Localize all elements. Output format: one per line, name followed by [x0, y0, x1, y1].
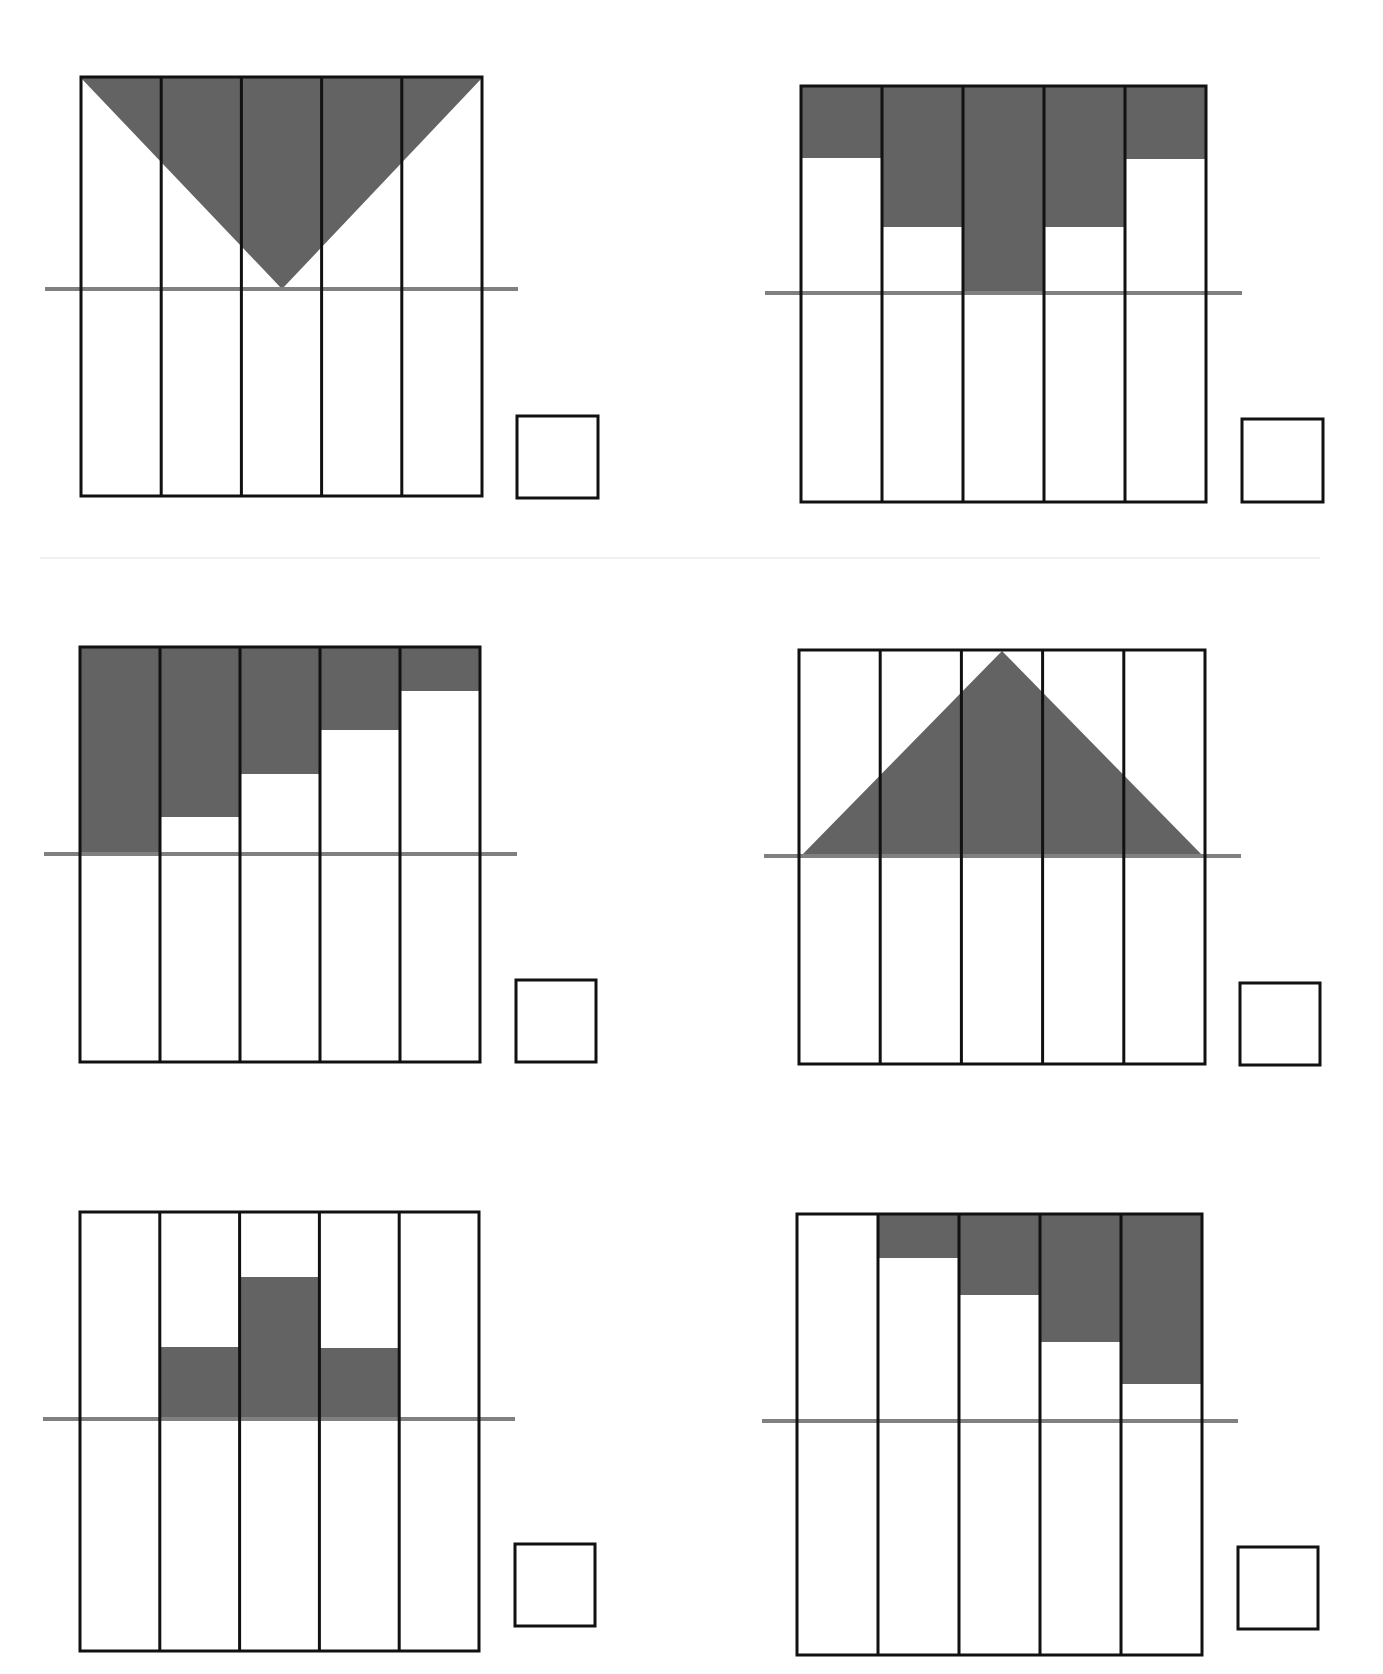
answer-box[interactable]	[1238, 1547, 1318, 1629]
shaded-column	[240, 647, 320, 774]
shaded-column	[1040, 1214, 1121, 1342]
shaded-column	[160, 1347, 240, 1419]
shaded-column	[160, 647, 240, 817]
shaded-column	[801, 86, 882, 158]
figure-panel-1	[45, 77, 598, 498]
answer-box[interactable]	[516, 980, 596, 1062]
shaded-column	[320, 647, 400, 730]
figure-panel-4	[764, 650, 1320, 1065]
answer-box[interactable]	[1242, 419, 1323, 502]
shaded-column	[882, 86, 963, 227]
figure-panel-6	[762, 1214, 1318, 1655]
figure-panel-2	[765, 86, 1323, 502]
shaded-column	[80, 647, 160, 854]
shaded-column	[1044, 86, 1125, 227]
shaded-column	[240, 1277, 320, 1419]
shaded-column	[959, 1214, 1040, 1295]
shaded-column	[878, 1214, 959, 1258]
answer-box[interactable]	[1240, 983, 1320, 1065]
figure-grid	[0, 0, 1383, 1674]
figure-panel-5	[43, 1212, 595, 1651]
figure-panel-3	[44, 647, 596, 1062]
shaded-column	[1121, 1214, 1202, 1384]
shaded-column	[963, 86, 1044, 294]
shaded-column	[400, 647, 480, 691]
shaded-triangle	[801, 651, 1203, 856]
answer-box[interactable]	[515, 1544, 595, 1626]
shaded-triangle	[81, 78, 482, 289]
answer-box[interactable]	[517, 416, 598, 498]
worksheet-page	[0, 0, 1383, 1674]
shaded-column	[319, 1348, 399, 1419]
shaded-column	[1125, 86, 1206, 159]
